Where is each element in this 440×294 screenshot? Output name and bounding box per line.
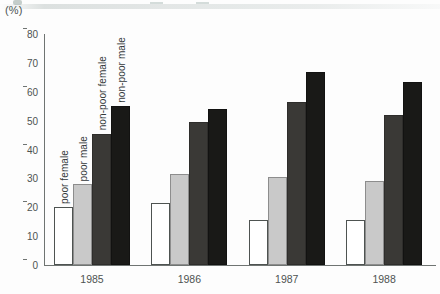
y-axis-unit-label: (%) <box>5 4 23 16</box>
plot-area: 01020304050607080 poor femalepoor maleno… <box>44 34 436 266</box>
x-axis-line <box>44 265 436 266</box>
y-axis-tick-label: 0 <box>32 260 38 271</box>
bar-poor-female[interactable]: poor female <box>54 207 73 265</box>
bar-poor-female[interactable] <box>151 203 170 265</box>
y-axis-tick-mark <box>23 201 27 202</box>
bar-group: 1986 <box>151 34 227 265</box>
y-axis-tick-label: 40 <box>27 144 38 155</box>
scan-artifact-tick-right <box>196 2 209 4</box>
x-axis-category-label: 1986 <box>178 273 201 285</box>
scan-artifact-tick-left <box>150 2 163 4</box>
y-axis-tick-mark <box>23 86 27 87</box>
bar-non-poor-female[interactable] <box>384 115 403 265</box>
x-axis-category-label: 1985 <box>80 273 103 285</box>
y-axis-line <box>44 34 45 266</box>
scan-artifact-streak <box>0 4 440 9</box>
bar-poor-male[interactable]: poor male <box>73 184 92 265</box>
bar-non-poor-male[interactable] <box>208 109 227 265</box>
chart-figure: (%) 01020304050607080 poor femalepoor ma… <box>0 0 440 294</box>
y-axis-tick-label: 80 <box>27 29 38 40</box>
y-axis-tick-mark <box>23 144 27 145</box>
x-axis-category-label: 1987 <box>275 273 298 285</box>
series-annotation-label: poor male <box>77 136 88 181</box>
y-axis-tick-label: 60 <box>27 86 38 97</box>
series-annotation-label: non-poor male <box>115 37 126 103</box>
y-axis-tick-label: 50 <box>27 115 38 126</box>
bar-group: 1988 <box>346 34 422 265</box>
y-axis-tick-label: 10 <box>27 231 38 242</box>
bar-non-poor-female[interactable] <box>189 122 208 265</box>
bar-group: poor femalepoor malenon-poor femalenon-p… <box>54 34 130 265</box>
bar-non-poor-male[interactable]: non-poor male <box>111 106 130 265</box>
y-axis-tick-label: 30 <box>27 173 38 184</box>
bar-non-poor-male[interactable] <box>306 72 325 265</box>
bar-non-poor-female[interactable] <box>287 102 306 265</box>
bar-poor-female[interactable] <box>249 220 268 265</box>
series-annotation-label: poor female <box>58 150 69 204</box>
bar-non-poor-male[interactable] <box>403 82 422 265</box>
series-annotation-label: non-poor female <box>96 56 107 130</box>
x-axis-category-label: 1988 <box>372 273 395 285</box>
bar-poor-male[interactable] <box>268 177 287 265</box>
y-axis-tick-mark <box>23 28 27 29</box>
bar-poor-female[interactable] <box>346 220 365 265</box>
bar-poor-male[interactable] <box>365 181 384 265</box>
y-axis-tick-label: 70 <box>27 57 38 68</box>
y-axis-tick-mark <box>23 259 27 260</box>
bar-non-poor-female[interactable]: non-poor female <box>92 134 111 265</box>
bar-group: 1987 <box>249 34 325 265</box>
y-axis-tick-label: 20 <box>27 202 38 213</box>
bar-poor-male[interactable] <box>170 174 189 265</box>
